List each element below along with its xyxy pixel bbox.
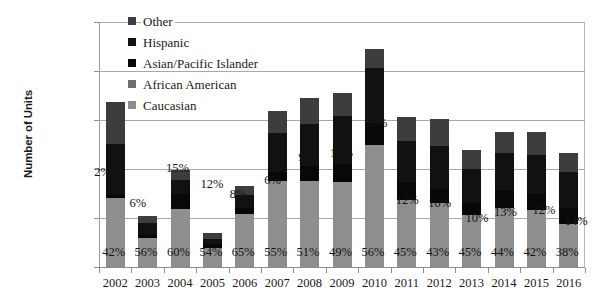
label-asian-pct-2003: 6% [130,196,147,211]
legend-item-hispanic[interactable]: Hispanic [128,32,260,52]
label-asian-pct-2004: 15% [166,161,189,176]
bar-segment-hispanic [365,68,384,123]
legend-swatch-icon [128,17,136,25]
label-asian-pct-2002: 2% [94,165,111,180]
label-asian-pct-2010: 10% [364,116,387,131]
label-asian-pct-2008: 9% [299,150,316,165]
x-tick-label-2002: 2002 [103,276,128,291]
legend-label: Other [141,14,175,29]
bar-segment-other [300,98,319,123]
label-caucasian-pct-2005: 54% [199,245,222,260]
x-tick-mark [553,268,554,273]
stacked-bar-chart: Number of Units 050001000015000200002500… [0,0,597,305]
legend-label: Caucasian [141,98,198,113]
legend-label: Hispanic [141,35,191,50]
x-tick-label-2004: 2004 [168,276,193,291]
legend-label: Asian/Pacific Islander [141,56,260,71]
x-tick-mark [196,268,197,273]
label-caucasian-pct-2009: 49% [329,245,352,260]
label-asian-pct-2016: 14% [565,214,588,229]
bar-segment-asian [171,194,190,209]
y-axis-title: Number of Units [22,49,34,219]
bar-segment-other [559,153,578,171]
label-caucasian-pct-2016: 38% [556,245,579,260]
legend-item-caucasian[interactable]: Caucasian [128,95,260,115]
bar-segment-hispanic [495,153,514,190]
bar-2007[interactable] [268,111,287,267]
label-asian-pct-2015: 12% [532,203,555,218]
label-caucasian-pct-2008: 51% [297,245,320,260]
x-tick-mark [261,268,262,273]
x-tick-label-2007: 2007 [265,276,290,291]
bar-segment-other [138,216,157,223]
bar-segment-other [462,150,481,169]
label-caucasian-pct-2011: 45% [394,245,417,260]
x-tick-mark [455,268,456,273]
bar-segment-asian [333,164,352,181]
x-tick-mark [229,268,230,273]
bar-2002[interactable] [106,102,125,267]
legend-label: African American [141,77,238,92]
bar-segment-hispanic [268,133,287,172]
bar-segment-hispanic [527,155,546,194]
x-tick-mark [164,268,165,273]
label-caucasian-pct-2004: 60% [167,245,190,260]
label-asian-pct-2014: 13% [494,205,517,220]
legend-swatch-icon [128,38,136,46]
legend-swatch-icon [128,101,136,109]
bar-segment-hispanic [138,223,157,236]
x-tick-mark [358,268,359,273]
label-caucasian-pct-2013: 45% [459,245,482,260]
bar-segment-other [106,102,125,143]
x-tick-mark [488,268,489,273]
label-asian-pct-2013: 10% [466,211,489,226]
bar-segment-other [268,111,287,133]
legend-swatch-icon [128,59,136,67]
label-asian-pct-2011: 12% [396,193,419,208]
label-caucasian-pct-2002: 42% [102,245,125,260]
bar-segment-other [333,93,352,117]
x-tick-label-2015: 2015 [524,276,549,291]
legend-item-asian-pacific-islander[interactable]: Asian/Pacific Islander [128,53,260,73]
bar-segment-asian [300,166,319,181]
x-tick-label-2011: 2011 [395,276,420,291]
x-tick-label-2003: 2003 [135,276,160,291]
x-tick-mark [293,268,294,273]
x-tick-mark [131,268,132,273]
label-asian-pct-2005: 12% [200,177,223,192]
bar-2010[interactable] [365,49,384,268]
x-tick-label-2010: 2010 [362,276,387,291]
label-asian-pct-2012: 10% [428,196,451,211]
bar-segment-hispanic [171,180,190,195]
label-caucasian-pct-2010: 56% [361,245,384,260]
x-tick-mark [391,268,392,273]
bar-segment-hispanic [430,146,449,189]
x-tick-label-2016: 2016 [556,276,581,291]
x-tick-mark [520,268,521,273]
legend-item-african-american[interactable]: African American [128,74,260,94]
bar-2008[interactable] [300,98,319,267]
bar-segment-hispanic [397,141,416,181]
x-tick-label-2012: 2012 [427,276,452,291]
x-tick-label-2005: 2005 [200,276,225,291]
bar-segment-other [365,49,384,69]
x-tick-label-2006: 2006 [232,276,257,291]
label-caucasian-pct-2014: 44% [491,245,514,260]
label-asian-pct-2009: 10% [330,146,353,161]
x-tick-label-2009: 2009 [330,276,355,291]
bar-segment-other [527,132,546,155]
bar-segment-other [495,132,514,154]
bar-segment-other [430,119,449,146]
legend: OtherHispanicAsian/Pacific IslanderAfric… [128,11,260,115]
label-caucasian-pct-2007: 55% [264,245,287,260]
legend-swatch-icon [128,80,136,88]
x-tick-mark [423,268,424,273]
label-caucasian-pct-2015: 42% [523,245,546,260]
x-tick-mark [585,268,586,273]
x-tick-mark [99,268,100,273]
label-caucasian-pct-2006: 65% [232,245,255,260]
bar-segment-other [397,117,416,141]
label-asian-pct-2007: 6% [264,173,281,188]
legend-item-other[interactable]: Other [128,11,260,31]
bar-2009[interactable] [333,93,352,267]
